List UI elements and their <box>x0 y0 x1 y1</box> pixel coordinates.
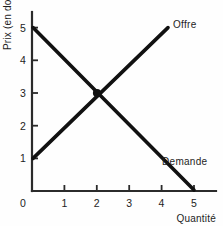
y-tick-labels: 5 4 3 2 1 <box>20 22 26 165</box>
x-tick-label-2: 2 <box>94 197 100 209</box>
x-tick-label-4: 4 <box>159 197 165 209</box>
y-tick-label-2: 2 <box>20 120 26 132</box>
y-axis-title: Prix (en dollars) <box>2 0 13 50</box>
supply-curve-label: Offre <box>173 19 197 30</box>
y-tick-label-3: 3 <box>20 87 26 99</box>
y-tick-label-5: 5 <box>20 22 26 34</box>
equilibrium-point-marker <box>93 89 101 97</box>
supply-demand-figure: 5 4 3 2 1 0 1 2 3 4 5 Prix (en dollars) … <box>0 0 223 226</box>
x-tick-label-3: 3 <box>126 197 132 209</box>
x-tick-label-0: 0 <box>20 197 26 209</box>
chart-canvas: 5 4 3 2 1 0 1 2 3 4 5 Prix (en dollars) … <box>0 0 223 226</box>
x-tick-label-1: 1 <box>61 197 67 209</box>
x-tick-label-5: 5 <box>191 197 197 209</box>
y-tick-label-4: 4 <box>20 54 26 66</box>
x-axis-title: Quantité <box>177 213 217 224</box>
y-tick-label-1: 1 <box>20 152 26 164</box>
demand-curve-label: Demande <box>162 156 208 167</box>
x-tick-labels: 0 1 2 3 4 5 <box>20 197 197 209</box>
